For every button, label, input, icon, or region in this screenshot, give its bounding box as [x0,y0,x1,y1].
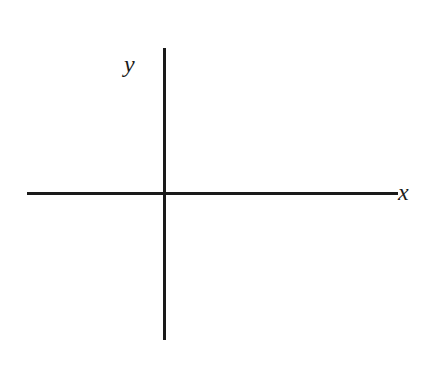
y-axis-label: y [124,52,135,76]
x-axis-label: x [398,180,409,204]
coordinate-axes-diagram: y x [0,0,444,366]
x-axis-line [27,192,398,195]
